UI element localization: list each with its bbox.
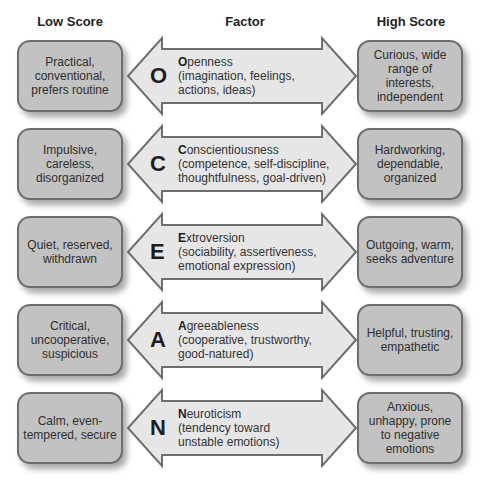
- factor-row-conscientiousness: Impulsive, careless, disorganized C Cons…: [0, 128, 488, 208]
- factor-name: greeableness: [187, 319, 259, 333]
- high-score-box: Anxious, unhappy, prone to negative emot…: [357, 392, 463, 464]
- factor-description: Conscientiousness (competence, self-disc…: [178, 128, 329, 200]
- factor-detail-line: (cooperative, trustworthy,: [178, 333, 312, 347]
- factor-detail-line: (tendency toward: [178, 421, 279, 435]
- low-score-box: Critical, uncooperative, suspicious: [17, 304, 123, 376]
- factor-row-neuroticism: Calm, even-tempered, secure N Neuroticis…: [0, 392, 488, 472]
- factor-letter: O: [150, 40, 167, 112]
- high-score-box: Curious, wide range of interests, indepe…: [357, 40, 463, 112]
- high-score-box: Helpful, trusting, empathetic: [357, 304, 463, 376]
- factor-detail-line: (competence, self-discipline,: [178, 157, 329, 171]
- factor-row-agreeableness: Critical, uncooperative, suspicious A Ag…: [0, 304, 488, 384]
- factor-letter: A: [150, 304, 166, 376]
- factor-detail-line: emotional expression): [178, 259, 317, 273]
- high-score-box: Hardworking, dependable, organized: [357, 128, 463, 200]
- factor-initial: N: [178, 407, 187, 421]
- factor-letter: C: [150, 128, 166, 200]
- factor-initial: A: [178, 319, 187, 333]
- factor-description: Extroversion (sociability, assertiveness…: [178, 216, 317, 288]
- factor-name: penness: [187, 55, 232, 69]
- low-score-box: Practical, conventional, prefers routine: [17, 40, 123, 112]
- factor-description: Openness (imagination, feelings, actions…: [178, 40, 295, 112]
- factor-initial: C: [178, 143, 187, 157]
- factor-row-openness: Practical, conventional, prefers routine…: [0, 40, 488, 120]
- low-score-box: Quiet, reserved, withdrawn: [17, 216, 123, 288]
- header-high-score: High Score: [357, 14, 465, 29]
- factor-initial: E: [178, 231, 186, 245]
- factor-letter: E: [150, 216, 165, 288]
- low-score-box: Impulsive, careless, disorganized: [17, 128, 123, 200]
- factor-description: Agreeableness (cooperative, trustworthy,…: [178, 304, 312, 376]
- factor-name: onscientiousness: [187, 143, 279, 157]
- factor-detail-line: actions, ideas): [178, 83, 295, 97]
- factor-row-extroversion: Quiet, reserved, withdrawn E Extroversio…: [0, 216, 488, 296]
- low-score-box: Calm, even-tempered, secure: [17, 392, 123, 464]
- factor-detail-line: (imagination, feelings,: [178, 69, 295, 83]
- factor-description: Neuroticism (tendency toward unstable em…: [178, 392, 279, 464]
- factor-detail-line: thoughtfulness, goal-driven): [178, 171, 329, 185]
- header-low-score: Low Score: [17, 14, 123, 29]
- header-factor: Factor: [190, 14, 300, 29]
- factor-detail-line: good-natured): [178, 347, 312, 361]
- factor-detail-line: (sociability, assertiveness,: [178, 245, 317, 259]
- factor-detail-line: unstable emotions): [178, 435, 279, 449]
- high-score-box: Outgoing, warm, seeks adventure: [357, 216, 463, 288]
- factor-name: xtroversion: [186, 231, 245, 245]
- factor-name: euroticism: [187, 407, 242, 421]
- factor-letter: N: [150, 392, 166, 464]
- factor-initial: O: [178, 55, 187, 69]
